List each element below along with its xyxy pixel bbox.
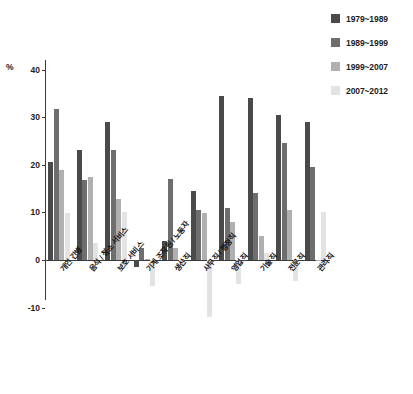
bar (77, 150, 82, 260)
bar (191, 191, 196, 260)
bar (88, 177, 93, 260)
legend-item-label: 2007~2012 (346, 86, 388, 96)
bar (219, 96, 224, 260)
y-tick-label: 40 (31, 65, 40, 75)
legend-item-label: 1999~2007 (346, 62, 388, 72)
legend-item-label: 1979~1989 (346, 14, 388, 24)
bar (134, 260, 139, 267)
legend-item: 1979~1989 (331, 8, 413, 29)
legend-swatch-icon (331, 86, 340, 95)
bar (259, 236, 264, 260)
legend-item: 1989~1999 (331, 32, 413, 53)
bar (59, 170, 64, 260)
bar (82, 180, 87, 260)
y-tick-label: 0 (35, 255, 40, 265)
chart-legend: 1979~1989 1989~1999 1999~2007 2007~2012 (331, 8, 413, 104)
legend-swatch-icon (331, 62, 340, 71)
legend-item: 2007~2012 (331, 80, 413, 101)
bar (276, 115, 281, 260)
bar-chart: % 1979~1989 1989~1999 1999~2007 2007~201… (0, 0, 413, 394)
bar (54, 109, 59, 260)
legend-swatch-icon (331, 38, 340, 47)
y-axis-unit-label: % (6, 62, 14, 72)
legend-item-label: 1989~1999 (346, 38, 388, 48)
bar (310, 167, 315, 260)
bar (48, 162, 53, 260)
y-tick-label: -10 (28, 303, 40, 313)
bar (196, 210, 201, 260)
legend-item: 1999~2007 (331, 56, 413, 77)
bar (282, 143, 287, 260)
y-tick-label: 30 (31, 112, 40, 122)
bar (253, 193, 258, 260)
legend-swatch-icon (331, 14, 340, 23)
bar (202, 213, 207, 260)
y-tick-mark (42, 308, 45, 309)
y-tick-label: 20 (31, 160, 40, 170)
y-tick-label: 10 (31, 207, 40, 217)
bar (248, 98, 253, 260)
bar (305, 122, 310, 260)
bar (287, 210, 292, 260)
